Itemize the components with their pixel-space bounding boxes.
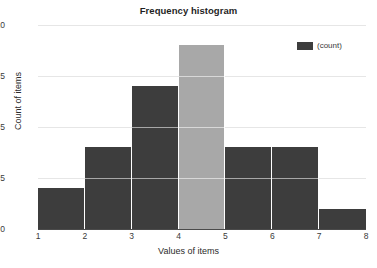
x-axis-tick-label: 6 [270, 231, 275, 241]
y-axis-title: Count of items [13, 31, 23, 171]
bar-gridline [179, 178, 225, 179]
y-axis-tick-label: 2.5 [0, 173, 5, 183]
gridline [38, 25, 366, 26]
x-axis-tick-label: 7 [317, 231, 322, 241]
x-axis-tick-label: 5 [223, 231, 228, 241]
bar-gridline [132, 127, 178, 128]
histogram-bar[interactable] [38, 188, 85, 229]
x-axis-line [38, 229, 366, 230]
bar-gridline [179, 76, 225, 77]
y-axis-tick-label: 10 [0, 20, 5, 30]
bar-gridline [179, 127, 225, 128]
x-axis-tick-label: 4 [176, 231, 181, 241]
y-axis-tick-label: 5 [0, 122, 5, 132]
histogram-bar[interactable] [179, 45, 226, 229]
bar-gridline [85, 178, 131, 179]
y-axis-tick-label: 0 [0, 224, 5, 234]
frequency-histogram-chart: Frequency histogram Count of items 02.55… [0, 0, 377, 268]
bar-gridline [272, 178, 318, 179]
histogram-bar[interactable] [132, 86, 179, 229]
x-axis-tick-label: 2 [82, 231, 87, 241]
histogram-bar[interactable] [225, 147, 272, 229]
histogram-bar[interactable] [319, 209, 366, 229]
legend-label: (count) [317, 41, 342, 50]
chart-legend: (count) [297, 41, 342, 50]
histogram-bar[interactable] [85, 147, 132, 229]
bar-gridline [132, 178, 178, 179]
x-axis-title: Values of items [0, 246, 377, 256]
histogram-bar[interactable] [272, 147, 319, 229]
x-axis-tick-label: 8 [364, 231, 369, 241]
plot-area [38, 25, 366, 229]
y-axis-tick-label: 7.5 [0, 71, 5, 81]
x-axis-tick-label: 3 [129, 231, 134, 241]
x-axis-tick-label: 1 [36, 231, 41, 241]
legend-color-swatch [297, 42, 313, 50]
chart-title: Frequency histogram [0, 5, 377, 16]
bar-gridline [225, 178, 271, 179]
